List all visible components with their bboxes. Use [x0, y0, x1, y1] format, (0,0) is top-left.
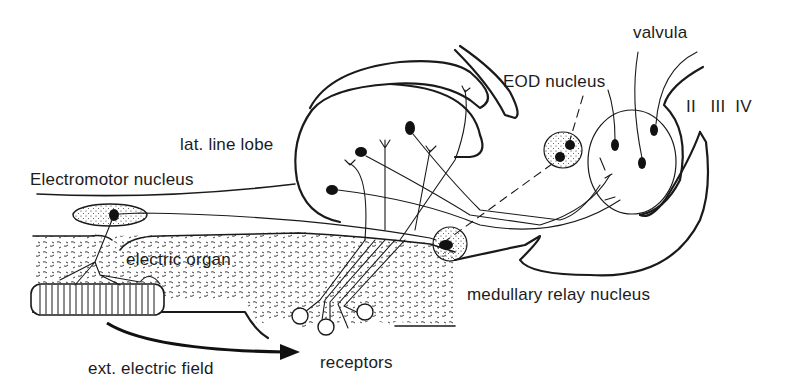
label-eod-nucleus: EOD nucleus: [503, 73, 605, 90]
label-medullary-relay-nucleus: medullary relay nucleus: [467, 286, 650, 303]
medullary-relay-nucleus: [433, 227, 467, 261]
label-valvula: valvula: [633, 24, 687, 41]
receptor-cup: [357, 304, 373, 320]
label-receptors: receptors: [320, 354, 393, 371]
receptor-cup: [292, 308, 308, 324]
label-ext-electric-field: ext. electric field: [88, 360, 214, 377]
label-electromotor-nucleus: Electromotor nucleus: [30, 171, 194, 188]
label-lat-line-lobe: lat. line lobe: [180, 136, 274, 153]
lll-neuron: [405, 121, 415, 135]
label-cerebellar-lobes: II III IV: [686, 98, 752, 115]
label-electric-organ: electric organ: [126, 251, 231, 268]
ext-field-arrow: [107, 323, 300, 360]
diagram-canvas: [0, 0, 789, 390]
electroreception-diagram: valvula EOD nucleus II III IV lat. line …: [0, 0, 789, 390]
receptor-cup: [318, 319, 334, 335]
eod-nucleus: [440, 96, 583, 245]
